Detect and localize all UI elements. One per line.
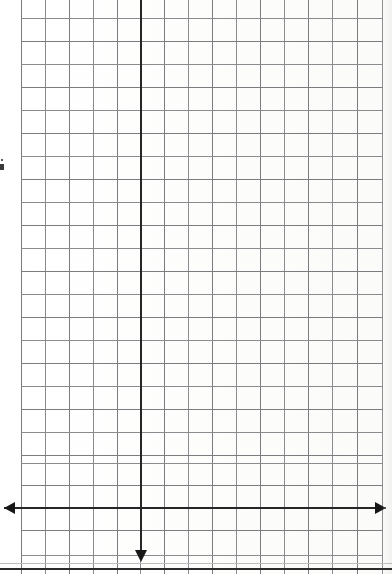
horizontal-axis-line — [4, 507, 386, 509]
axis-arrow-down-icon — [135, 550, 147, 562]
scan-soft-edge-line — [0, 563, 392, 564]
page-edge-artifact-dot-icon — [1, 159, 3, 161]
graph-paper-page — [0, 0, 392, 574]
axis-layer — [0, 0, 392, 574]
page-edge-artifact-icon — [0, 164, 4, 170]
axis-arrow-left-icon — [4, 502, 15, 514]
vertical-axis-line — [140, 0, 142, 550]
right-margin-shading — [382, 0, 392, 574]
scan-bottom-edge-line — [0, 568, 392, 570]
